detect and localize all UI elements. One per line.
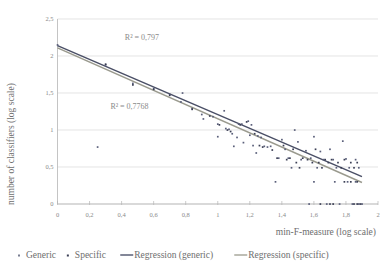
scatter-point — [299, 167, 301, 169]
x-tick-label: 1,8 — [342, 211, 350, 218]
scatter-point — [313, 136, 315, 138]
scatter-point — [239, 124, 241, 126]
y-axis-tick-labels: 00,511,522,5 — [45, 15, 53, 207]
scatter-point — [315, 148, 317, 150]
scatter-point — [251, 124, 253, 126]
scatter-point — [358, 203, 360, 205]
scatter-point — [323, 159, 325, 161]
scatter-point — [252, 145, 254, 147]
annotation-label: R² = 0,7768 — [110, 102, 148, 111]
scatter-point — [228, 128, 230, 130]
scatter-point — [344, 181, 346, 183]
y-tick-label: 0,5 — [45, 163, 53, 170]
scatter-point — [233, 145, 235, 147]
scatter-point — [336, 167, 338, 169]
scatter-point — [350, 162, 352, 164]
scatter-point — [259, 145, 261, 147]
scatter-point — [246, 121, 248, 123]
scatter-point — [182, 92, 184, 94]
scatter-point — [275, 181, 277, 183]
x-tick-label: 1,6 — [310, 211, 319, 218]
scatter-point — [97, 146, 99, 148]
scatter-point — [191, 108, 193, 110]
scatter-point — [247, 120, 249, 122]
chart-container: 00,511,522,5 00,20,40,60,811,21,41,61,82… — [0, 0, 386, 268]
scatter-point — [289, 157, 291, 159]
y-axis-title: number of classifiers (log scale) — [6, 83, 17, 205]
scatter-point — [316, 167, 318, 169]
scatter-point — [308, 203, 310, 205]
scatter-point — [302, 157, 304, 159]
scatter-point — [241, 123, 243, 125]
scatter-point — [310, 157, 312, 159]
scatter-point — [295, 162, 297, 164]
scatter-point — [281, 139, 283, 141]
scatter-point — [271, 149, 273, 151]
scatter-point — [320, 151, 322, 153]
x-tick-label: 1 — [216, 211, 219, 218]
x-tick-label: 1,4 — [278, 211, 287, 218]
scatter-chart: 00,511,522,5 00,20,40,60,811,21,41,61,82… — [0, 0, 386, 268]
scatter-point — [255, 152, 257, 154]
scatter-point — [203, 118, 205, 120]
y-tick-label: 1 — [50, 126, 53, 133]
scatter-point — [292, 148, 294, 150]
scatter-point — [219, 124, 221, 126]
scatter-point — [311, 162, 313, 164]
scatter-point — [339, 203, 341, 205]
scatter-point — [262, 146, 264, 148]
scatter-point — [294, 129, 296, 131]
scatter-point — [227, 129, 229, 131]
scatter-point — [270, 145, 272, 147]
scatter-point — [260, 137, 262, 139]
y-tick-label: 2 — [50, 52, 53, 59]
scatter-point — [217, 136, 219, 138]
scatter-point — [334, 181, 336, 183]
scatter-point — [328, 162, 330, 164]
scatter-point — [297, 141, 299, 143]
scatter-point — [350, 181, 352, 183]
scatter-point — [360, 203, 362, 205]
y-tick-label: 1,5 — [45, 89, 53, 96]
y-tick-label: 0 — [50, 200, 53, 207]
scatter-point — [217, 123, 219, 125]
scatter-point — [320, 203, 322, 205]
scatter-point — [254, 133, 256, 135]
scatter-point — [243, 142, 245, 144]
scatter-point — [238, 123, 240, 125]
scatter-point — [307, 159, 309, 161]
scatter-point — [132, 83, 134, 85]
x-tick-label: 1,2 — [246, 211, 254, 218]
scatter-point — [169, 94, 171, 96]
scatter-point — [278, 157, 280, 159]
scatter-point — [284, 148, 286, 150]
scatter-point — [344, 159, 346, 161]
scatter-point — [300, 159, 302, 161]
scatter-point — [342, 140, 344, 142]
scatter-point — [263, 145, 265, 147]
scatter-point — [201, 114, 203, 116]
scatter-point — [105, 63, 107, 65]
scatter-point — [236, 137, 238, 139]
scatter-point — [356, 181, 358, 183]
regression-line — [58, 46, 362, 177]
scatter-point — [223, 110, 225, 112]
scatter-point — [348, 167, 350, 169]
scatter-point — [355, 159, 357, 161]
x-tick-label: 2 — [376, 211, 379, 218]
scatter-point — [132, 84, 134, 86]
x-tick-label: 0,6 — [150, 211, 159, 218]
scatter-point — [352, 203, 354, 205]
scatter-point — [305, 150, 307, 152]
legend-item-label: Regression (generic) — [134, 250, 213, 261]
scatter-point — [225, 128, 227, 130]
legend-item-label: Generic — [26, 250, 56, 260]
scatter-point — [57, 44, 59, 46]
x-axis-tick-labels: 00,20,40,60,811,21,41,61,82 — [56, 211, 380, 218]
y-tick-label: 2,5 — [45, 15, 53, 22]
scatter-point — [313, 181, 315, 183]
scatter-point — [332, 203, 334, 205]
scatter-point — [267, 146, 269, 148]
chart-legend: GenericSpecificRegression (generic)Regre… — [18, 250, 329, 261]
scatter-point — [329, 203, 331, 205]
